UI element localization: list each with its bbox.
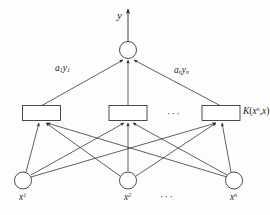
weight-label-1-y-sub: 1 [67,67,70,73]
input-layer-ellipsis: ··· [160,192,174,202]
hidden-unit-2-box [109,106,147,121]
weight-label-n: anyn [174,66,189,76]
input-to-hidden-edges [26,123,231,177]
hidden-layer-ellipsis: ··· [167,109,181,119]
diagram-canvas [0,0,270,215]
edge-x2-h1 [46,123,120,176]
input-1-sup: 1 [23,192,26,198]
input-node-n-label: xn [230,193,237,203]
edge-xn-hn [222,123,231,172]
kernel-function-label: K(xn,x) [243,107,269,117]
input-node-n [226,172,243,189]
edge-xn-h2 [133,123,227,175]
input-node-1-label: x1 [19,193,26,203]
input-node-1 [15,172,32,189]
output-signal-label: y [117,10,122,21]
edge-h1-output [41,60,123,106]
hidden-unit-n-box [202,106,240,121]
input-node-2-label: x2 [124,193,131,203]
kernel-label-close-paren: ) [266,106,269,116]
hidden-layer-boxes [23,106,241,121]
output-node [120,42,137,59]
edge-x1-hn [31,123,216,177]
weight-label-1: a1y1 [55,64,70,74]
output-layer-node [120,9,137,59]
input-2-sup: 2 [128,192,131,198]
edge-x1-h2 [31,123,124,175]
input-node-2 [120,172,137,189]
edge-x1-h1 [26,123,39,172]
weight-label-n-y-sub: n [186,69,189,75]
input-n-sup: n [234,192,237,198]
network-diagram-figure: y a1y1 anyn K(xn,x) x1 x2 xn ··· ··· [0,0,270,215]
input-layer-nodes [15,172,243,189]
hidden-unit-1-box [23,106,61,121]
edge-xn-h1 [47,123,227,177]
